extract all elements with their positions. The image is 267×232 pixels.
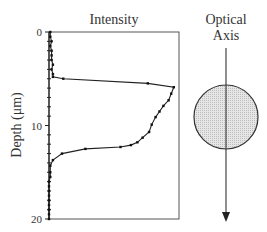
data-point (52, 64, 54, 66)
data-point (141, 137, 143, 139)
arrow-down-icon (222, 212, 230, 222)
data-point (173, 86, 175, 88)
intensity-curve (49, 32, 174, 219)
y-tick-label-0: 0 (37, 26, 43, 38)
data-point (130, 144, 132, 146)
data-point (162, 105, 164, 107)
y-tick-label-10: 10 (31, 120, 43, 132)
data-point (48, 213, 50, 215)
optical-axis-label-line1: Optical (205, 12, 246, 27)
data-point (50, 59, 52, 61)
data-point (167, 99, 169, 101)
data-point (50, 40, 52, 42)
data-point-markers (48, 31, 175, 220)
y-tick-label-20: 20 (31, 213, 43, 225)
data-point (52, 76, 54, 78)
data-point (84, 148, 86, 150)
data-point (48, 190, 50, 192)
data-point (170, 93, 172, 95)
y-axis-label: Depth (μm) (9, 92, 25, 158)
data-point (48, 204, 50, 206)
data-point (48, 199, 50, 201)
data-point (50, 68, 52, 70)
data-point (154, 116, 156, 118)
data-point (49, 165, 51, 167)
data-point (158, 110, 160, 112)
data-point (136, 141, 138, 143)
optical-axis-label-line2: Axis (213, 28, 239, 43)
data-point (62, 78, 64, 80)
data-point (147, 82, 149, 84)
data-point (50, 50, 52, 52)
data-point (48, 194, 50, 196)
data-point (151, 123, 153, 125)
data-point (49, 31, 51, 33)
data-point (119, 146, 121, 148)
data-point (48, 185, 50, 187)
data-point (49, 171, 51, 173)
plot-title: Intensity (90, 12, 139, 27)
data-point (48, 180, 50, 182)
data-point (49, 45, 51, 47)
data-point (49, 36, 51, 38)
data-point (48, 218, 50, 220)
data-point (148, 131, 150, 133)
figure: Intensity Depth (μm) 0 10 20 Optical Axi… (0, 0, 267, 232)
data-point (61, 152, 63, 154)
data-point (48, 209, 50, 211)
data-point (52, 159, 54, 161)
data-point (52, 73, 54, 75)
plot-frame (49, 32, 179, 219)
data-point (49, 176, 51, 178)
data-point (50, 54, 52, 56)
